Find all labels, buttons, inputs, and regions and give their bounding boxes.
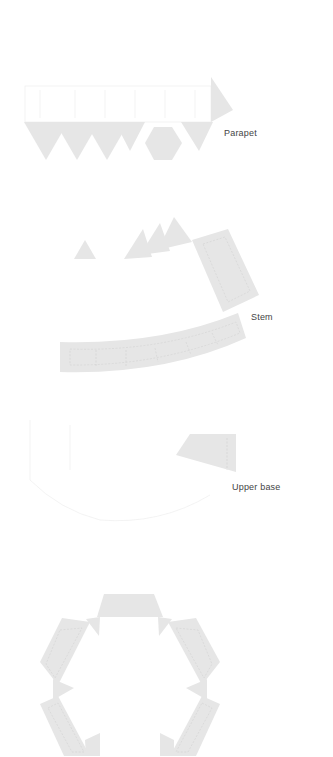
parapet-hexagon [145, 127, 182, 160]
lower-base-segment-lower-right [170, 696, 220, 756]
label-upper-base: Upper base [232, 482, 281, 492]
parapet-piece [24, 77, 233, 160]
stem-curved-band [60, 313, 246, 372]
label-parapet: Parapet [224, 128, 257, 138]
stem-side-arm [192, 229, 259, 312]
lower-base-segment-upper-left [40, 618, 90, 685]
lower-base-tab [186, 679, 207, 700]
lower-base-segment-lower-left [40, 696, 90, 756]
lower-base-segment-upper-right [168, 618, 220, 685]
lower-base-tab [85, 733, 100, 756]
lower-base-piece [40, 594, 220, 756]
lower-base-tab [160, 733, 174, 756]
parapet-triangle [181, 122, 213, 151]
template-canvas [0, 0, 333, 757]
parapet-arrow-tab [211, 77, 233, 122]
lower-base-tab [53, 679, 74, 700]
upper-base-outline [30, 420, 210, 521]
parapet-strip [25, 86, 211, 122]
stem-triangle [74, 240, 96, 259]
lower-base-tab [158, 617, 172, 636]
label-stem: Stem [251, 312, 273, 322]
lower-base-segment-top [97, 594, 163, 617]
stem-piece [60, 217, 259, 372]
lower-base-tab [86, 617, 100, 636]
upper-base-piece [30, 420, 236, 521]
